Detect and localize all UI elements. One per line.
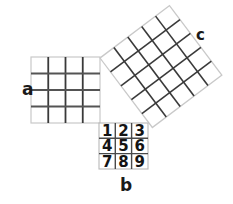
label-c: c: [196, 26, 205, 44]
label-a: a: [22, 79, 33, 99]
square-a: [31, 57, 100, 123]
square-b-cell-7: 7: [102, 153, 112, 171]
label-b: b: [120, 175, 132, 195]
square-b: 1 2 3 4 5 6 7 8 9: [99, 122, 148, 170]
figure-canvas: 1 2 3 4 5 6 7 8 9 a b c: [0, 0, 233, 204]
square-b-cell-8: 8: [118, 153, 128, 171]
square-c: [100, 6, 222, 128]
pythagorean-diagram: 1 2 3 4 5 6 7 8 9 a b c: [0, 0, 233, 204]
square-b-cell-9: 9: [135, 153, 145, 171]
